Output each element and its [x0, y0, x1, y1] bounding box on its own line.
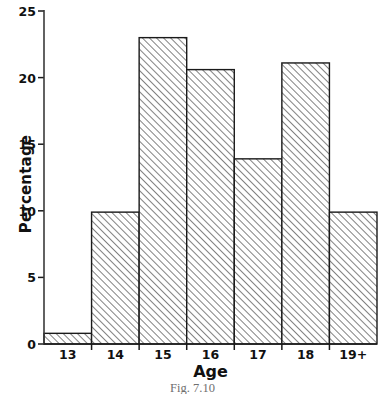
y-axis-tick-label: 15 [10, 137, 36, 152]
histogram-bar [234, 159, 282, 344]
histogram-bar [329, 212, 377, 344]
y-axis-tick-label: 25 [10, 4, 36, 19]
x-axis-tick-label: 15 [154, 347, 171, 362]
x-axis-tick-label: 17 [249, 347, 266, 362]
histogram-svg [44, 11, 377, 344]
histogram-bar [282, 63, 330, 344]
y-axis-tick-label: 10 [10, 203, 36, 218]
x-axis-tick-label: 16 [202, 347, 219, 362]
x-axis-tick-label: 13 [59, 347, 76, 362]
y-axis-tick-labels: 0510152025 [8, 0, 36, 394]
x-axis-tick-label: 18 [297, 347, 314, 362]
x-axis-tick-label: 14 [107, 347, 124, 362]
y-axis-tick-label: 0 [10, 337, 36, 352]
histogram-bar [187, 70, 235, 344]
y-axis-ticks [38, 11, 44, 344]
x-axis-tick-label: 19+ [339, 347, 367, 362]
figure-caption: Fig. 7.10 [0, 381, 385, 394]
y-axis-tick-label: 20 [10, 70, 36, 85]
bar-group [44, 38, 377, 344]
plot-area [44, 11, 377, 344]
y-axis-tick-label: 5 [10, 270, 36, 285]
x-axis-title: Age [44, 362, 377, 381]
figure-histogram: Percentage 0510152025 13141516171819+ Ag… [0, 0, 385, 394]
histogram-bar [92, 212, 140, 344]
histogram-bar [44, 333, 92, 344]
histogram-bar [139, 38, 187, 344]
